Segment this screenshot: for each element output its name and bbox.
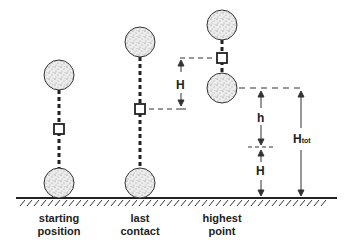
- figure-last-contact: [125, 27, 176, 198]
- label-h: h: [257, 112, 264, 124]
- label-H-tot-sub: tot: [302, 137, 311, 144]
- center-of-mass-marker: [217, 53, 227, 63]
- figure-highest-point: [180, 10, 237, 103]
- lower-ball: [207, 73, 237, 103]
- label-last-contact: last contact: [110, 212, 170, 238]
- label-starting-position: starting position: [29, 212, 89, 238]
- lower-ball: [44, 168, 74, 198]
- ground: [16, 198, 337, 206]
- label-H-tot-main: H: [293, 132, 302, 146]
- upper-ball: [125, 27, 155, 57]
- upper-ball: [207, 10, 237, 40]
- label-highest-point: highest point: [192, 212, 252, 238]
- upper-ball: [44, 60, 74, 90]
- center-of-mass-marker: [135, 104, 145, 114]
- lower-ball: [125, 168, 155, 198]
- figure-starting-position: [44, 60, 74, 198]
- label-H-tot: Htot: [293, 133, 311, 147]
- label-H-left: H: [176, 79, 185, 91]
- center-of-mass-marker: [54, 124, 64, 134]
- label-H-right: H: [256, 165, 265, 177]
